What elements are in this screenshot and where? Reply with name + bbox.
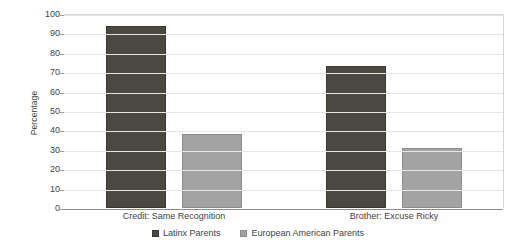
y-axis-tick-labels: 1009080706050403020100	[34, 14, 60, 208]
y-axis-tick-label: 100	[34, 10, 60, 19]
y-axis-tickmark	[60, 73, 64, 74]
legend-swatch-icon	[152, 230, 159, 237]
legend-label: European American Parents	[251, 228, 364, 238]
bar-chart: Percentage 1009080706050403020100 Credit…	[0, 0, 516, 252]
y-axis-tick-label: 80	[34, 48, 60, 57]
y-axis-tickmark	[60, 190, 64, 191]
y-axis-tickmark	[60, 93, 64, 94]
chart-legend: Latinx ParentsEuropean American Parents	[0, 228, 516, 238]
x-axis-category-label: Credit: Same Recognition	[123, 210, 226, 222]
y-axis-tick-label: 50	[34, 107, 60, 116]
gridline	[64, 34, 503, 35]
y-axis-tickmark	[60, 170, 64, 171]
y-axis-tickmark	[60, 54, 64, 55]
legend-item[interactable]: Latinx Parents	[152, 228, 221, 238]
y-axis-tickmark	[60, 151, 64, 152]
gridline	[64, 131, 503, 132]
plot-area	[64, 14, 504, 208]
gridline	[64, 93, 503, 94]
gridline	[64, 73, 503, 74]
y-axis-tick-label: 0	[34, 204, 60, 213]
bar	[326, 66, 386, 208]
x-axis-category-labels: Credit: Same RecognitionBrother: Excuse …	[64, 210, 504, 226]
x-axis-category-label: Brother: Excuse Ricky	[350, 210, 439, 222]
y-axis-tick-label: 40	[34, 126, 60, 135]
y-axis-tickmark	[60, 34, 64, 35]
y-axis-tickmark	[60, 131, 64, 132]
gridline	[64, 151, 503, 152]
y-axis-tick-label: 90	[34, 29, 60, 38]
legend-swatch-icon	[240, 230, 247, 237]
legend-label: Latinx Parents	[163, 228, 221, 238]
y-axis-tickmark	[60, 15, 64, 16]
y-axis-tick-label: 60	[34, 87, 60, 96]
y-axis-tickmark	[60, 112, 64, 113]
y-axis-tick-label: 70	[34, 68, 60, 77]
y-axis-tick-label: 10	[34, 184, 60, 193]
y-axis-tick-label: 30	[34, 145, 60, 154]
y-axis-tick-label: 20	[34, 165, 60, 174]
gridline	[64, 170, 503, 171]
gridline	[64, 54, 503, 55]
legend-item[interactable]: European American Parents	[240, 228, 364, 238]
bar	[402, 148, 462, 208]
gridline	[64, 190, 503, 191]
gridline	[64, 15, 503, 16]
gridline	[64, 112, 503, 113]
